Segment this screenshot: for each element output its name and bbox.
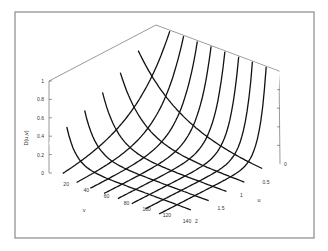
z-tick-label-right: 0 bbox=[284, 161, 287, 167]
z-tick-label: 1 bbox=[41, 78, 44, 84]
v-tick-label: 120 bbox=[163, 212, 172, 218]
u-tick-label: 1.5 bbox=[218, 205, 225, 211]
v-tick-label: 60 bbox=[104, 193, 110, 199]
u-tick-label: 1 bbox=[240, 192, 243, 198]
z-tick-label: 0.4 bbox=[37, 133, 44, 139]
v-tick-label: 100 bbox=[143, 206, 152, 212]
x-axis-label: v bbox=[83, 207, 86, 213]
y-axis-label: u bbox=[257, 197, 260, 203]
v-tick-label: 20 bbox=[63, 181, 69, 187]
z-tick-label: 0 bbox=[41, 170, 44, 176]
z-tick-label: 0.8 bbox=[37, 96, 44, 102]
u-tick-label: 0.5 bbox=[263, 179, 270, 185]
v-tick-label: 80 bbox=[124, 200, 130, 206]
z-tick-label: 0.2 bbox=[37, 152, 44, 158]
surface-plot-figure: 00.20.40.60.810204060801001201400.511.52… bbox=[0, 0, 328, 251]
z-axis-label: D(u,v) bbox=[23, 130, 29, 145]
v-tick-label: 140 bbox=[183, 218, 192, 224]
z-tick-label: 0.6 bbox=[37, 115, 44, 121]
u-tick-label: 2 bbox=[195, 218, 198, 224]
v-tick-label: 40 bbox=[84, 187, 90, 193]
